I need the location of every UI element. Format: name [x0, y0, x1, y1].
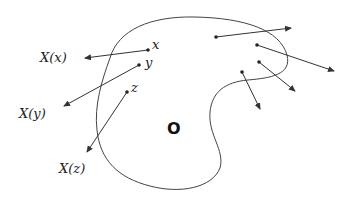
vector-unlabeled-1	[214, 28, 291, 39]
vector-unlabeled-2	[255, 43, 334, 71]
diagram-drawing	[0, 0, 353, 198]
vector-x	[85, 48, 150, 58]
vector-field-diagram: x y z X(x) X(y) X(z) O	[0, 0, 353, 198]
vector-y	[64, 63, 141, 106]
vector-z	[87, 90, 129, 152]
label-vector-z: X(z)	[59, 162, 85, 175]
label-point-x: x	[152, 38, 159, 51]
region-boundary	[96, 17, 287, 189]
label-vector-x: X(x)	[40, 51, 67, 64]
vector-unlabeled-4	[240, 70, 260, 109]
label-vector-y: X(y)	[19, 107, 46, 120]
label-point-y: y	[145, 56, 152, 69]
origin-label: O	[167, 121, 181, 137]
vector-unlabeled-3	[257, 60, 295, 91]
label-point-z: z	[131, 81, 138, 94]
